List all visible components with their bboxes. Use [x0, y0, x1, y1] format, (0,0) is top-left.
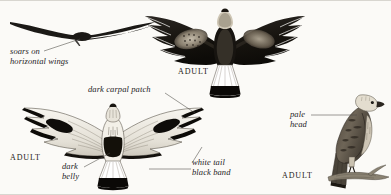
leader-line-soars — [44, 39, 84, 53]
field-guide-plate: soars on horizontal wings — [0, 0, 391, 195]
leader-line-belly — [84, 153, 114, 169]
label-black-band: black band — [192, 168, 231, 178]
leader-line-pale-head — [311, 111, 359, 119]
label-dark-carpal-patch: dark carpal patch — [88, 85, 151, 95]
adult-label-lower-right: ADULT — [282, 171, 313, 180]
label-dark-belly-line2: belly — [62, 172, 79, 182]
adult-label-upper: ADULT — [178, 67, 209, 76]
figure-adult-perched — [322, 89, 391, 193]
figure-adult-dorsal — [140, 3, 310, 98]
label-soars-line2: horizontal wings — [10, 57, 69, 67]
label-pale-head-line2: head — [290, 120, 307, 130]
leader-line-tail — [149, 165, 193, 173]
adult-label-lower-left: ADULT — [10, 153, 41, 162]
leader-line-carpal — [165, 93, 199, 117]
leader-line-tail-upper — [190, 147, 204, 165]
